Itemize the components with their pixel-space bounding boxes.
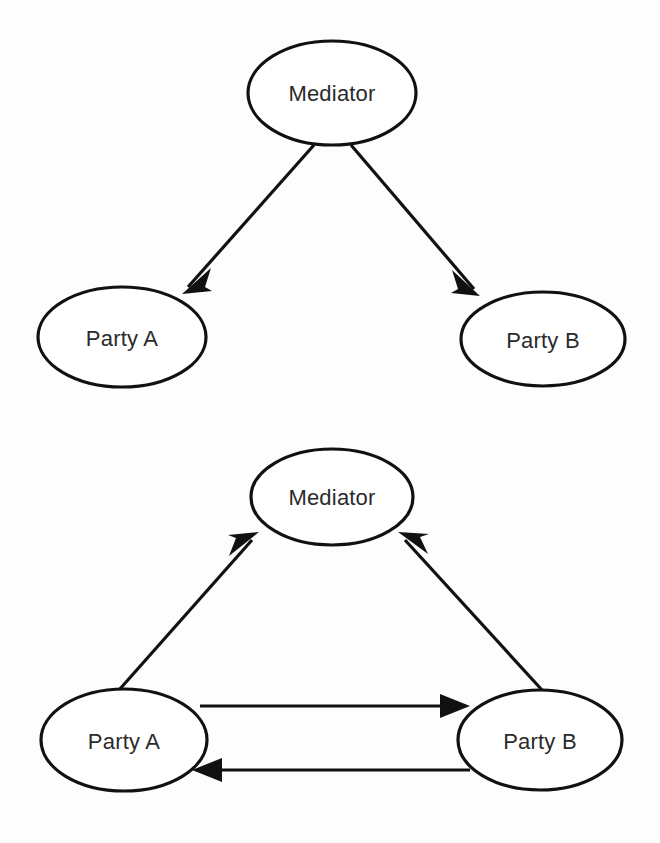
mediation-diagram-canvas: Mediator Party A Party B [0, 0, 660, 843]
node-mediator-bottom[interactable]: Mediator [251, 449, 413, 545]
node-party-a-top-label: Party A [86, 326, 158, 351]
node-party-b-bottom-label: Party B [503, 729, 577, 754]
node-mediator-top[interactable]: Mediator [248, 41, 416, 145]
node-party-b-top[interactable]: Party B [461, 292, 625, 386]
node-mediator-bottom-label: Mediator [288, 485, 375, 510]
node-party-b-bottom[interactable]: Party B [458, 690, 622, 790]
node-party-a-bottom-label: Party A [88, 729, 160, 754]
node-party-b-top-label: Party B [506, 328, 580, 353]
node-party-a-bottom[interactable]: Party A [41, 689, 207, 791]
node-party-a-top[interactable]: Party A [38, 287, 206, 387]
node-mediator-top-label: Mediator [288, 81, 375, 106]
